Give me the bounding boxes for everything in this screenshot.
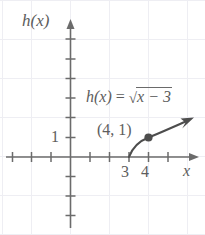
- grid-lines: [0, 0, 205, 235]
- equation-function-name: h(x): [86, 88, 112, 105]
- y-tick-label-1: 1: [51, 129, 59, 145]
- x-tick-label-4: 4: [141, 164, 149, 180]
- function-curve: [129, 118, 194, 158]
- equation-label: h(x) = √x − 3: [86, 89, 172, 105]
- radical-sign: √: [129, 90, 136, 106]
- y-axis-label: h(x): [22, 12, 49, 29]
- point-coordinate-label: (4, 1): [97, 122, 132, 138]
- equation-equals: =: [116, 88, 125, 105]
- graph-figure: h(x) x 1 3 4 (4, 1) h(x) = √x − 3: [0, 0, 205, 235]
- x-axis-label: x: [183, 163, 190, 179]
- coordinate-plane: [0, 0, 205, 235]
- plotted-point-marker: [144, 133, 152, 141]
- x-tick-label-3: 3: [121, 164, 129, 180]
- equation-radicand: x − 3: [136, 87, 172, 105]
- x-axis: [6, 153, 199, 161]
